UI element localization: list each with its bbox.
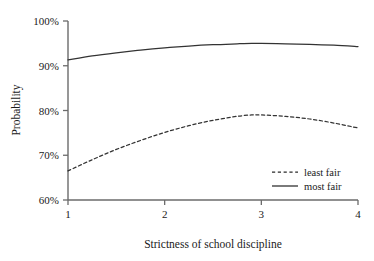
y-tick-label: 60%: [39, 194, 59, 206]
y-tick-label: 80%: [39, 105, 59, 117]
legend-label-least-fair: least fair: [304, 167, 341, 178]
probability-line-chart: 60%70%80%90%100% 1234 Probability Strict…: [0, 0, 374, 261]
y-axis-title: Probability: [10, 84, 23, 135]
x-tick-label: 3: [259, 208, 265, 220]
y-tick-label: 70%: [39, 149, 59, 161]
x-axis-title: Strictness of school discipline: [144, 238, 282, 251]
legend-label-most-fair: most fair: [304, 181, 342, 192]
chart-background: [0, 0, 374, 261]
x-tick-label: 4: [355, 208, 361, 220]
y-tick-label: 100%: [33, 15, 59, 27]
y-tick-label: 90%: [39, 60, 59, 72]
x-tick-label: 1: [65, 208, 71, 220]
x-tick-label: 2: [162, 208, 168, 220]
